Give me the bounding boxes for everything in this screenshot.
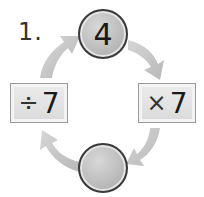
top-circle: 4 <box>78 9 128 59</box>
multiply-operand: 7 <box>170 87 188 120</box>
arrow-bottom-to-left-icon <box>40 130 80 172</box>
arrow-top-to-right-icon <box>128 40 164 80</box>
divide-operator: ÷ <box>19 89 39 117</box>
problem-number: 1. <box>18 18 43 46</box>
bottom-circle-answer[interactable] <box>78 143 128 193</box>
arrow-right-to-bottom-icon <box>126 128 160 166</box>
divide-operand: 7 <box>42 87 60 120</box>
number-cycle-problem: 1. 4 × 7 ÷ 7 <box>0 0 204 197</box>
top-circle-value: 4 <box>93 17 112 52</box>
multiply-box: × 7 <box>138 83 196 123</box>
multiply-operator: × <box>147 89 167 117</box>
arrow-left-to-top-icon <box>40 36 80 78</box>
divide-box: ÷ 7 <box>10 83 68 123</box>
